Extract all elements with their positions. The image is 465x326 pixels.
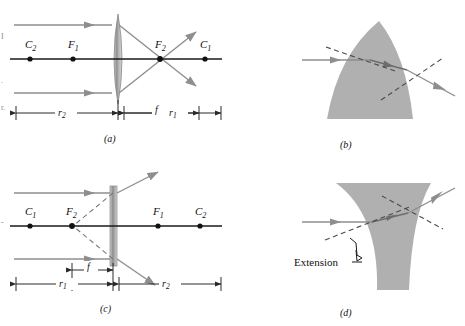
dimension-group-c: [16, 263, 221, 291]
margin-text-fragment-3: r.: [1, 103, 5, 112]
axis-label-C1-a: C1: [200, 38, 211, 53]
margin-text-fragment-2: .: [1, 76, 3, 85]
axis-label-C1-c: C1: [25, 205, 36, 220]
axis-label-F2-c: F2: [65, 205, 77, 220]
axis-label-F1-c: F1: [152, 205, 164, 220]
axis-label-F2-a: F2: [154, 38, 166, 53]
panel-label-d: (d): [340, 307, 352, 319]
axis-point-C2-c: [197, 223, 202, 228]
exit-ray-arrow-d: [431, 191, 443, 204]
extension-brace-d: [350, 238, 362, 261]
panel-c-diverging-lens: C1 F2 F1 C2: [10, 172, 222, 315]
axis-point-F2-a: [157, 56, 163, 62]
axis-point-F1-c: [155, 223, 160, 228]
incident-ray-arrow-d: [330, 219, 341, 226]
axis-point-C2-a: [27, 56, 32, 61]
panel-d-prism-diverging: Extension (d): [294, 183, 455, 319]
incident-ray-arrow-b: [330, 57, 341, 64]
virtual-extension-lower-c: [73, 226, 113, 259]
axis-point-C1-a: [202, 56, 207, 61]
incident-ray-upper-arrow-c: [84, 190, 95, 197]
lens-ray-diagram-figure: I . r. -: [0, 0, 465, 326]
axis-point-F1-a: [70, 56, 75, 61]
refracted-ray-lower-c: [117, 259, 155, 285]
incident-ray-lower-arrow-a: [84, 90, 95, 97]
virtual-extension-upper-c: [73, 193, 113, 226]
panel-label-c: (c): [100, 303, 112, 315]
axis-label-C2-c: C2: [195, 205, 206, 220]
figure-canvas: C2 F1 F2 C1: [0, 0, 465, 326]
exit-ray-arrow-b: [433, 82, 446, 91]
panel-b-prism-converging: (b): [302, 21, 455, 151]
axis-label-F1-a: F1: [67, 38, 79, 53]
panel-a-converging-lens: C2 F1 F2 C1: [10, 14, 222, 145]
dimension-group-a: [16, 100, 221, 120]
panel-label-b: (b): [340, 139, 352, 151]
lens-element-shape-d: [336, 183, 431, 290]
incident-ray-upper-arrow-a: [84, 22, 95, 29]
refracted-ray-upper-c: [117, 172, 158, 193]
exit-ray-b: [407, 70, 455, 96]
refracted-ray-upper-a: [119, 25, 196, 86]
margin-text-fragment-1: I: [1, 32, 4, 41]
extension-annotation-label-d: Extension: [294, 256, 338, 268]
panel-label-a: (a): [104, 133, 116, 145]
axis-point-F2-c: [69, 223, 75, 229]
lens-element-shape-b: [327, 21, 413, 119]
margin-text-fragment-4: -: [1, 218, 4, 227]
axis-point-C1-c: [27, 223, 32, 228]
axis-label-C2-a: C2: [25, 38, 36, 53]
